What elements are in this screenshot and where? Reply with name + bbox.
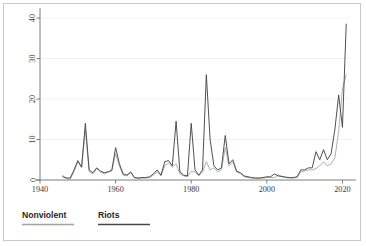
- y-axis-ticks: 010203040: [29, 14, 41, 182]
- y-tick-label: 40: [29, 14, 38, 22]
- grid-lines: [40, 18, 350, 139]
- x-tick-label: 1940: [32, 185, 48, 194]
- y-tick-label: 20: [29, 95, 38, 103]
- chart-legend: NonviolentRiots: [22, 210, 150, 225]
- chart-canvas: 010203040 19401960198020002020 Nonviolen…: [0, 0, 366, 246]
- y-tick-label: 10: [29, 135, 38, 143]
- series-line-riots: [63, 24, 347, 178]
- legend-label-riots[interactable]: Riots: [98, 210, 120, 220]
- x-tick-label: 1980: [183, 185, 199, 194]
- data-series-group: [63, 24, 347, 179]
- x-tick-label: 2000: [259, 185, 275, 194]
- x-tick-label: 1960: [107, 185, 123, 194]
- x-axis-ticks: 19401960198020002020: [32, 180, 351, 194]
- x-tick-label: 2020: [334, 185, 350, 194]
- legend-label-nonviolent[interactable]: Nonviolent: [22, 210, 67, 220]
- line-chart: 010203040 19401960198020002020 Nonviolen…: [0, 0, 366, 246]
- y-tick-label: 30: [29, 54, 38, 62]
